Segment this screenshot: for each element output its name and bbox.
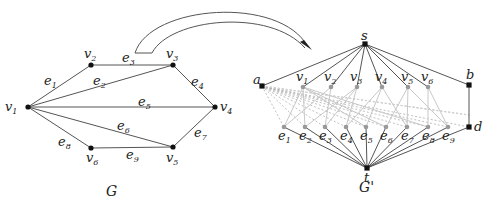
g-node-label-v1: v1 [5,99,17,116]
gp-dashed-a-e2 [262,86,305,127]
g-edge-label-e7: e7 [194,125,208,142]
g-edge-e6 [28,107,173,147]
g-node-v4 [212,104,217,109]
g-node-label-v2: v2 [84,46,96,63]
arrow-inner-curve [152,22,305,53]
g-edge-label-e9: e9 [126,147,139,164]
arrow-outer-curve [135,12,308,53]
gp-node-label-e6: e6 [380,128,393,145]
g-edge-label-e1: e1 [44,73,57,90]
gp-node-label-a: a [253,72,261,87]
g-edge-label-e6: e6 [117,118,130,135]
gp-edge-t-e2 [305,127,367,168]
g-edge-label-e8: e8 [58,134,71,151]
graph-gprime-incidence-edges [284,87,448,127]
g-node-label-v3: v3 [166,46,178,63]
g-node-v5 [170,144,175,149]
gp-node-label-e4: e4 [340,128,353,145]
g-node-label-v6: v6 [86,150,98,167]
gp-node-label-e8: e8 [422,128,435,145]
g-node-label-v4: v4 [220,99,232,116]
gp-node-label-d: d [474,119,482,134]
gp-node-label-v5: v5 [401,69,413,86]
gp-incidence-v1-e8 [303,87,428,127]
graph-g-edges [28,65,215,148]
diagram-canvas: v1v2v3v4v5v6e1e2e3e4e5e6e7e8e9 G sabdtv1… [0,0,491,211]
gp-node-label-e7: e7 [401,128,415,145]
gp-incidence-v5-e6 [386,87,408,127]
gp-node-label-v3: v3 [350,69,362,86]
g-node-v3 [170,62,175,67]
g-edge-label-e2: e2 [93,73,106,90]
gp-node-label-b: b [466,67,474,82]
gp-dashed-a-e9 [262,86,448,127]
g-edge-e1 [28,65,91,107]
graph-gprime-caption: G' [359,179,374,195]
gp-node-label-s: s [361,28,368,43]
gp-node-label-e1: e1 [278,128,291,145]
g-node-v2 [88,62,93,67]
graph-g-caption: G [106,183,117,199]
gp-dashed-a-e1 [262,86,284,127]
transform-arrow [135,12,312,53]
gp-node-label-v6: v6 [421,69,433,86]
gp-node-label-e5: e5 [360,128,373,145]
gp-node-label-e3: e3 [319,128,332,145]
gp-node-label-v4: v4 [375,69,387,86]
gp-dashed-a-e6 [262,86,386,127]
gp-incidence-v6-e9 [428,87,448,127]
gp-node-b [466,82,471,87]
gp-incidence-v1-e2 [303,87,305,127]
g-edge-label-e4: e4 [191,74,204,91]
gp-node-d [466,124,471,129]
g-node-label-v5: v5 [166,150,178,167]
g-edge-label-e5: e5 [138,94,151,111]
gp-node-label-v2: v2 [324,69,336,86]
g-node-v1 [25,104,30,109]
g-edge-label-e3: e3 [122,50,135,67]
gp-node-label-e9: e9 [442,128,455,145]
gp-node-label-v1: v1 [296,69,308,86]
gp-dashed-fan-v6 [262,86,469,115]
